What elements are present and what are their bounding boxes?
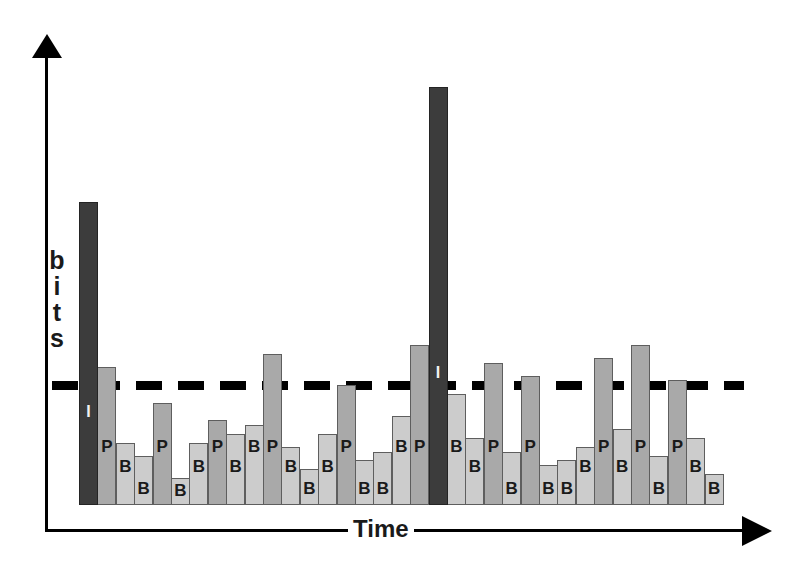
x-axis-label: Time <box>348 515 414 543</box>
arrow-right-icon <box>742 516 772 546</box>
bar-frame-b: B <box>705 474 724 505</box>
bar-frame-p: P <box>410 345 429 505</box>
bar-frame-type-label: B <box>448 438 465 456</box>
bar-frame-b: B <box>557 460 576 505</box>
bar-frame-p: P <box>631 345 650 505</box>
y-axis-label-char: s <box>44 325 70 351</box>
bar-frame-type-label: B <box>227 458 244 476</box>
bar-frame-type-label: B <box>614 458 631 476</box>
bar-frame-b: B <box>649 456 668 505</box>
bar-frame-b: B <box>447 394 466 505</box>
bar-frame-p: P <box>263 354 282 505</box>
bar-frame-b: B <box>318 434 337 505</box>
bar-frame-type-label: B <box>650 480 667 498</box>
bar-frame-p: P <box>153 403 172 505</box>
bar-frame-b: B <box>245 425 264 505</box>
bar-frame-b: B <box>355 460 374 505</box>
bar-frame-type-label: P <box>522 438 539 456</box>
bar-frame-type-label: B <box>393 438 410 456</box>
bar-frame-type-label: B <box>246 438 263 456</box>
bar-frame-p: P <box>521 376 540 505</box>
bar-frame-type-label: I <box>430 364 447 382</box>
bar-frame-b: B <box>116 443 135 505</box>
bar-frame-type-label: B <box>540 480 557 498</box>
bar-frame-type-label: B <box>577 458 594 476</box>
bar-frame-b: B <box>613 429 632 505</box>
bar-frame-b: B <box>189 443 208 505</box>
bar-frame-i: I <box>429 87 448 505</box>
bar-frame-b: B <box>576 447 595 505</box>
y-axis-label-char: b <box>44 247 70 273</box>
bar-frame-type-label: P <box>338 438 355 456</box>
bar-frame-type-label: I <box>80 403 97 421</box>
bar-frame-b: B <box>281 447 300 505</box>
bar-frame-i: I <box>79 202 98 505</box>
bar-frame-type-label: P <box>98 438 115 456</box>
bar-frame-type-label: B <box>466 458 483 476</box>
bar-frame-type-label: B <box>503 480 520 498</box>
bar-frame-b: B <box>502 452 521 505</box>
bar-frame-type-label: B <box>374 480 391 498</box>
chart-canvas: bits IPBBPBBPBBPBBBPBBBPIBBPBPBBBPBPBPBB… <box>0 0 804 584</box>
bar-frame-type-label: P <box>595 438 612 456</box>
bar-frame-p: P <box>594 358 613 505</box>
bar-frame-b: B <box>373 452 392 505</box>
bar-frame-b: B <box>134 456 153 505</box>
bar-frame-type-label: P <box>154 438 171 456</box>
bar-frame-b: B <box>686 438 705 505</box>
bar-frame-b: B <box>392 416 411 505</box>
bar-frame-type-label: B <box>172 482 189 500</box>
bar-frame-type-label: P <box>485 438 502 456</box>
bar-frame-p: P <box>97 367 116 505</box>
bar-frame-b: B <box>226 434 245 505</box>
bar-frame-p: P <box>484 363 503 505</box>
bar-frame-p: P <box>668 380 687 505</box>
bar-frame-type-label: P <box>411 438 428 456</box>
y-axis-label-char: i <box>44 273 70 299</box>
bar-frame-p: P <box>208 420 227 505</box>
bar-frame-type-label: B <box>301 480 318 498</box>
plot-area: IPBBPBBPBBPBBBPBBBPIBBPBPBBBPBPBPBB <box>79 60 723 505</box>
bar-frame-type-label: B <box>356 480 373 498</box>
bar-frame-type-label: B <box>558 480 575 498</box>
bar-frame-b: B <box>171 478 190 505</box>
bar-frame-type-label: B <box>190 458 207 476</box>
bar-frame-type-label: P <box>669 438 686 456</box>
bar-frame-type-label: P <box>264 438 281 456</box>
bar-frame-p: P <box>337 385 356 505</box>
bar-frame-type-label: B <box>706 480 723 498</box>
y-axis-label: bits <box>44 247 70 351</box>
bar-frame-type-label: P <box>209 438 226 456</box>
y-axis-label-char: t <box>44 299 70 325</box>
bar-frame-b: B <box>539 465 558 505</box>
bar-frame-type-label: B <box>282 458 299 476</box>
bar-frame-b: B <box>465 438 484 505</box>
bar-frame-type-label: B <box>135 480 152 498</box>
bar-frame-type-label: B <box>117 458 134 476</box>
bar-frame-type-label: B <box>319 458 336 476</box>
bar-frame-b: B <box>300 469 319 505</box>
bar-frame-type-label: B <box>687 458 704 476</box>
bar-frame-type-label: P <box>632 438 649 456</box>
